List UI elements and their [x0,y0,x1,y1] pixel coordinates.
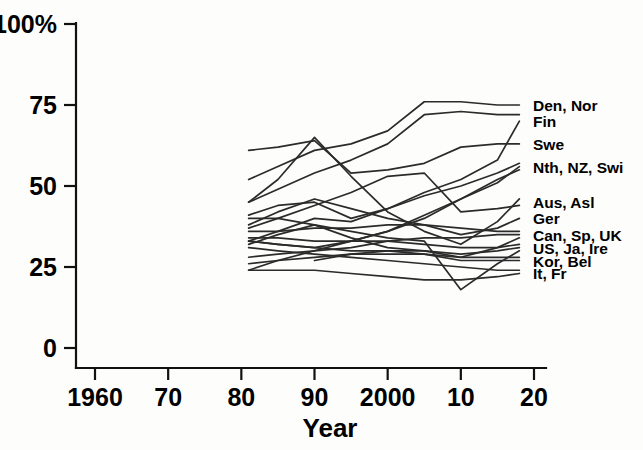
x-tick-label: 2000 [360,383,416,411]
legend-label: It, Fr [533,265,567,282]
y-tick-label: 100% [0,10,57,38]
legend-label: Nth, NZ, Swi [533,159,623,176]
chart-figure: 0255075100% 196070809020001020 Year Den,… [0,0,643,450]
series-line [249,270,520,280]
x-axis-ticks: 196070809020001020 [67,368,548,411]
x-tick-label: 80 [227,383,255,411]
legend-label: Ger [533,210,560,227]
x-tick-label: 90 [301,383,329,411]
legend-label: Swe [533,136,564,153]
x-tick-label: 70 [154,383,182,411]
x-tick-label: 10 [447,383,475,411]
series-line [249,121,520,241]
line-chart-svg: 0255075100% 196070809020001020 Year Den,… [0,0,643,450]
x-tick-label: 1960 [67,383,123,411]
legend-label: Den, Nor [533,97,598,114]
legend-label: Fin [533,113,556,130]
y-tick-label: 75 [29,91,57,119]
y-tick-label: 25 [29,253,57,281]
x-tick-label: 20 [520,383,548,411]
x-axis-title: Year [303,413,358,443]
axes-group: 0255075100% 196070809020001020 [0,10,548,411]
series-lines-group [249,102,520,290]
legend-label: Aus, Asl [533,194,594,211]
legend-group: Den, NorFinSweNth, NZ, SwiAus, AslGerCan… [533,97,623,282]
y-tick-label: 50 [29,172,57,200]
y-tick-label: 0 [43,334,57,362]
y-axis-ticks: 0255075100% [0,10,76,362]
